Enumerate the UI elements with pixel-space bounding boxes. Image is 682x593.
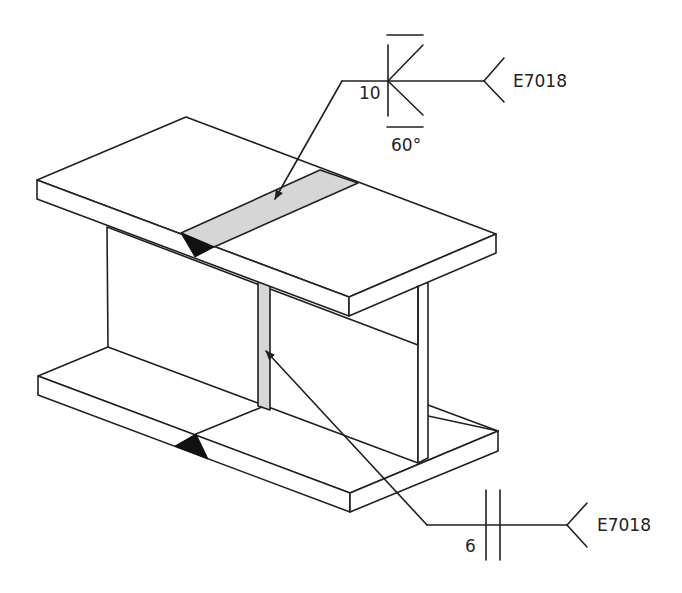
welding-diagram: 10 60° E7018 6 E7018 bbox=[0, 0, 682, 593]
upper-tail-lower bbox=[484, 81, 504, 102]
upper-angle-label: 60° bbox=[391, 135, 421, 155]
groove-lower-bevel bbox=[388, 81, 423, 115]
upper-tail-upper bbox=[484, 58, 504, 81]
lower-electrode-label: E7018 bbox=[597, 515, 651, 535]
groove-upper-bevel bbox=[388, 45, 423, 81]
lower-size-label: 6 bbox=[465, 536, 476, 556]
web-end-face bbox=[418, 282, 428, 463]
upper-size-label: 10 bbox=[359, 83, 381, 103]
lower-tail-lower bbox=[567, 525, 587, 547]
upper-electrode-label: E7018 bbox=[513, 71, 567, 91]
lower-tail-upper bbox=[567, 503, 587, 525]
web-weld-strip bbox=[258, 281, 270, 410]
